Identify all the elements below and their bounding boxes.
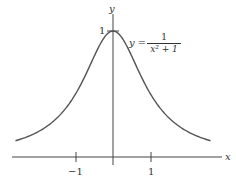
y-tick-label-1: 1	[99, 26, 105, 36]
x-tick-label-neg1: −1	[68, 167, 83, 177]
x-tick-label-1: 1	[148, 167, 154, 177]
annotation-fraction: 1 x² + 1	[147, 33, 181, 54]
y-axis-label: y	[109, 4, 115, 14]
fraction-denominator: x² + 1	[150, 44, 178, 54]
annotation-lhs: y =	[129, 38, 146, 48]
fraction-numerator: 1	[161, 33, 167, 43]
chart-canvas	[0, 0, 236, 184]
x-axis-label: x	[225, 152, 231, 162]
